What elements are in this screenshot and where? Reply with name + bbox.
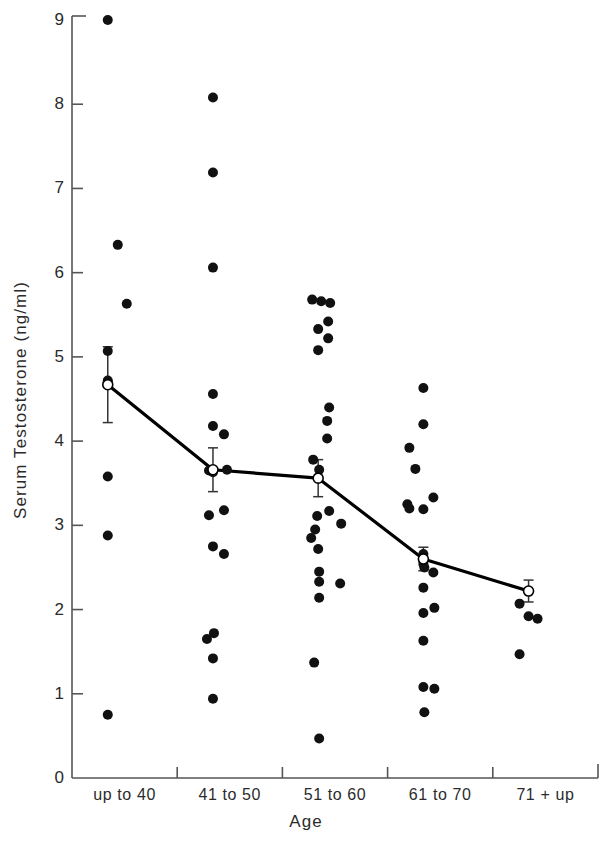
data-point — [325, 298, 335, 308]
mean-marker — [418, 554, 428, 564]
axes — [72, 16, 598, 778]
data-point — [208, 421, 218, 431]
data-point — [313, 544, 323, 554]
data-points — [103, 15, 543, 743]
data-point — [336, 519, 346, 529]
data-point — [418, 504, 428, 514]
data-point — [312, 511, 322, 521]
data-point — [418, 608, 428, 618]
data-point — [314, 567, 324, 577]
data-point — [404, 443, 414, 453]
data-point — [208, 389, 218, 399]
x-tick-label-1: 41 to 50 — [198, 786, 261, 804]
data-point — [313, 345, 323, 355]
y-tick-label: 9 — [38, 10, 64, 30]
data-point — [428, 493, 438, 503]
mean-marker — [103, 380, 113, 390]
mean-marker — [208, 465, 218, 475]
data-point — [208, 653, 218, 663]
y-tick-label: 4 — [38, 431, 64, 451]
data-point — [418, 636, 428, 646]
data-point — [219, 505, 229, 515]
y-tick-label: 2 — [38, 600, 64, 620]
data-point — [323, 317, 333, 327]
y-tick-label: 3 — [38, 515, 64, 535]
data-point — [103, 530, 113, 540]
x-tick-label-4: 71 + up — [516, 786, 574, 804]
data-point — [533, 614, 543, 624]
data-point — [324, 506, 334, 516]
data-point — [515, 599, 525, 609]
y-tick-label: 7 — [38, 178, 64, 198]
data-point — [103, 346, 113, 356]
data-point — [208, 541, 218, 551]
data-point — [314, 733, 324, 743]
mean-marker — [313, 473, 323, 483]
data-point — [314, 577, 324, 587]
data-point — [322, 434, 332, 444]
x-tick-label-2: 51 to 60 — [304, 786, 367, 804]
data-point — [103, 15, 113, 25]
data-point — [308, 455, 318, 465]
data-point — [418, 682, 428, 692]
data-point — [219, 549, 229, 559]
x-tick-label-0: up to 40 — [93, 786, 156, 804]
data-point — [113, 240, 123, 250]
data-point — [309, 658, 319, 668]
data-point — [410, 464, 420, 474]
data-point — [202, 634, 212, 644]
data-point — [122, 299, 132, 309]
data-point — [103, 471, 113, 481]
testosterone-age-scatter-figure: Serum Testosterone (ng/ml) Age 012345678… — [0, 0, 612, 850]
data-point — [208, 694, 218, 704]
axis-ticks — [72, 104, 493, 778]
data-point — [103, 710, 113, 720]
plot-canvas — [0, 0, 612, 850]
data-point — [219, 429, 229, 439]
mean-marker — [524, 586, 534, 596]
y-tick-label: 0 — [38, 768, 64, 788]
data-point — [316, 296, 326, 306]
data-point — [404, 503, 414, 513]
data-point — [208, 263, 218, 273]
data-point — [204, 510, 214, 520]
data-point — [324, 402, 334, 412]
data-point — [418, 419, 428, 429]
data-point — [418, 383, 428, 393]
data-point — [313, 324, 323, 334]
y-tick-label: 8 — [38, 94, 64, 114]
x-tick-label-3: 61 to 70 — [409, 786, 472, 804]
y-tick-label: 5 — [38, 347, 64, 367]
data-point — [323, 333, 333, 343]
data-point — [418, 583, 428, 593]
data-point — [419, 707, 429, 717]
data-point — [524, 611, 534, 621]
data-point — [322, 416, 332, 426]
data-point — [335, 578, 345, 588]
data-point — [222, 465, 232, 475]
data-point — [208, 167, 218, 177]
data-point — [314, 593, 324, 603]
data-point — [515, 649, 525, 659]
data-point — [307, 295, 317, 305]
y-tick-label: 6 — [38, 263, 64, 283]
data-point — [429, 684, 439, 694]
data-point — [428, 567, 438, 577]
data-point — [306, 533, 316, 543]
data-point — [429, 603, 439, 613]
y-tick-label: 1 — [38, 684, 64, 704]
data-point — [208, 92, 218, 102]
